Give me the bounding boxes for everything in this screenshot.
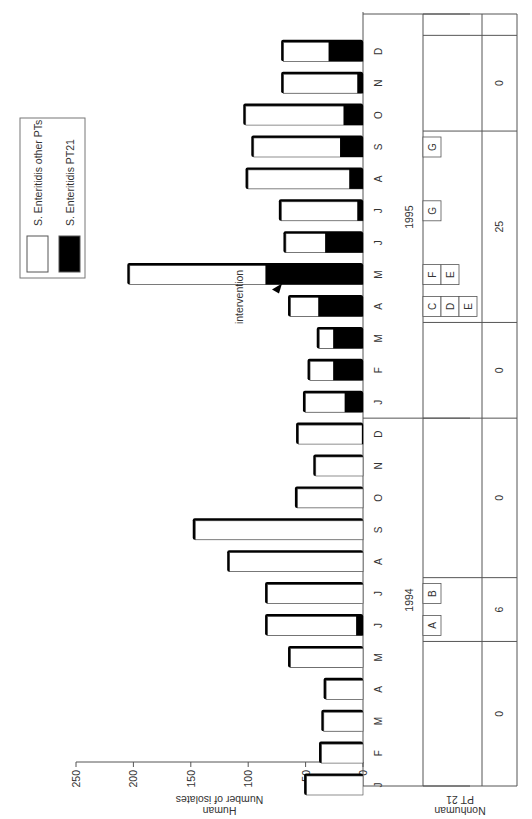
letter-box-label: E bbox=[463, 303, 474, 310]
month-label: M bbox=[373, 717, 384, 725]
nonhuman-count: 0 bbox=[493, 367, 505, 373]
bar-group bbox=[324, 678, 363, 700]
bar-other-pts bbox=[268, 617, 363, 636]
bar-group bbox=[281, 40, 363, 62]
year-label: 1994 bbox=[403, 588, 415, 612]
value-axis-tick-label: 250 bbox=[70, 770, 82, 788]
bar-pt21 bbox=[325, 233, 363, 253]
month-label: M bbox=[373, 653, 384, 661]
bar-pt21 bbox=[345, 392, 363, 412]
bar-pt21 bbox=[333, 360, 363, 380]
bar-other-pts bbox=[291, 648, 363, 667]
month-label: O bbox=[373, 111, 384, 119]
intervention-arrowhead-icon bbox=[272, 284, 282, 294]
month-label: O bbox=[373, 494, 384, 502]
bar-other-pts bbox=[248, 170, 363, 189]
rotated-bar-chart: 050100150200250HumanNumber of isolatesJF… bbox=[0, 0, 532, 819]
month-label: J bbox=[373, 240, 384, 245]
nonhuman-count: 25 bbox=[493, 221, 505, 233]
bar-group bbox=[319, 742, 363, 764]
nonhuman-label-line2: PT 21 bbox=[446, 794, 474, 806]
bar-other-pts bbox=[324, 712, 363, 731]
month-label: J bbox=[373, 591, 384, 596]
month-label: S bbox=[373, 526, 384, 533]
month-label: N bbox=[373, 462, 384, 469]
bar-group bbox=[127, 263, 363, 285]
year-label: 1995 bbox=[403, 205, 415, 229]
bar-pt21 bbox=[357, 201, 363, 221]
legend-swatch-pt21 bbox=[59, 236, 80, 272]
month-label: J bbox=[373, 783, 384, 788]
bar-group bbox=[265, 582, 363, 604]
month-label: D bbox=[373, 430, 384, 437]
bar-other-pts bbox=[316, 457, 363, 476]
month-label: A bbox=[373, 303, 384, 310]
bar-pt21 bbox=[343, 105, 363, 125]
bar-group bbox=[295, 486, 363, 508]
letter-box-label: F bbox=[427, 272, 438, 278]
legend-swatch-other-pts bbox=[27, 236, 48, 272]
bar-group bbox=[279, 199, 363, 221]
bar-group bbox=[265, 614, 363, 636]
month-label: A bbox=[373, 686, 384, 693]
bar-pt21 bbox=[265, 265, 363, 285]
month-label: M bbox=[373, 270, 384, 278]
letter-box-label: C bbox=[427, 303, 438, 310]
nonhuman-count: 0 bbox=[493, 495, 505, 501]
month-label: F bbox=[373, 367, 384, 373]
letter-box-label: G bbox=[427, 207, 438, 215]
value-axis-tick-label: 150 bbox=[185, 770, 197, 788]
legend-label-pt21: S. Enteritidis PT21 bbox=[64, 139, 76, 226]
nonhuman-count: 6 bbox=[493, 606, 505, 612]
legend: S. Enteritidis other PTsS. Enteritidis P… bbox=[20, 118, 85, 278]
bar-pt21 bbox=[357, 73, 363, 93]
bar-pt21 bbox=[349, 169, 363, 189]
bar-group bbox=[288, 295, 363, 317]
bar-group bbox=[193, 518, 363, 540]
month-label: A bbox=[373, 175, 384, 182]
nonhuman-count: 0 bbox=[493, 80, 505, 86]
bar-other-pts bbox=[322, 744, 363, 763]
bar-group bbox=[321, 710, 363, 732]
bar-other-pts bbox=[281, 202, 363, 221]
bar-pt21 bbox=[329, 41, 363, 61]
bar-other-pts bbox=[230, 553, 363, 572]
chart-figure: 050100150200250HumanNumber of isolatesJF… bbox=[0, 0, 532, 819]
month-label: A bbox=[373, 558, 384, 565]
month-label: D bbox=[373, 48, 384, 55]
bar-other-pts bbox=[299, 425, 363, 444]
bar-group bbox=[281, 72, 363, 94]
legend-label-other-pts: S. Enteritidis other PTs bbox=[32, 120, 44, 226]
letter-box-label: G bbox=[427, 143, 438, 151]
bar-pt21 bbox=[356, 616, 363, 636]
value-axis-tick-label: 100 bbox=[242, 770, 254, 788]
value-axis-title-line2: Number of isolates bbox=[176, 794, 264, 806]
nonhuman-count: 0 bbox=[493, 711, 505, 717]
bar-pt21 bbox=[340, 137, 363, 157]
bar-other-pts bbox=[297, 489, 363, 508]
bar-group bbox=[243, 104, 363, 126]
bar-group bbox=[317, 327, 363, 349]
bar-group bbox=[283, 231, 363, 253]
bar-group bbox=[303, 391, 363, 413]
bar-group bbox=[288, 646, 363, 668]
month-label: N bbox=[373, 80, 384, 87]
bar-group bbox=[304, 774, 363, 796]
letter-box-label: A bbox=[427, 622, 438, 629]
intervention-label: intervention bbox=[233, 270, 245, 324]
bar-pt21 bbox=[362, 424, 363, 444]
month-label: S bbox=[373, 143, 384, 150]
month-label: J bbox=[373, 208, 384, 213]
letter-box-label: D bbox=[445, 303, 456, 310]
month-label: F bbox=[373, 750, 384, 756]
month-label: J bbox=[373, 623, 384, 628]
letter-box-label: B bbox=[427, 590, 438, 597]
month-label: M bbox=[373, 334, 384, 342]
bar-other-pts bbox=[195, 521, 363, 540]
nonhuman-label-line1: Nonhuman bbox=[434, 805, 486, 817]
bar-pt21 bbox=[318, 297, 363, 317]
bar-group bbox=[227, 550, 363, 572]
bar-other-pts bbox=[307, 776, 363, 795]
letter-box-label: E bbox=[445, 271, 456, 278]
bar-group bbox=[308, 359, 363, 381]
